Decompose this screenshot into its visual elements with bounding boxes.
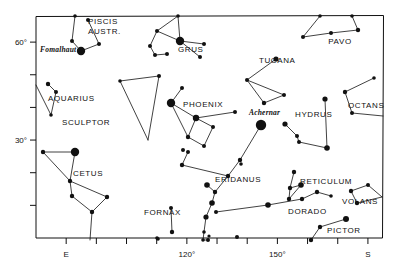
- constellation-label-line: AUSTR.: [88, 27, 121, 36]
- star-dot: [180, 86, 184, 90]
- star-dot: [324, 145, 330, 151]
- constellation-label: HYDRUS: [295, 110, 332, 119]
- constellation-label-line: VOLANS: [342, 197, 378, 206]
- constellation-label: PISCISAUSTR.: [88, 17, 121, 36]
- star-dot: [41, 150, 45, 154]
- constellation-label-line: GRUS: [178, 45, 204, 54]
- star-dot: [97, 42, 101, 46]
- constellation-label: PAVO: [328, 37, 351, 46]
- star-dot: [207, 234, 210, 237]
- constellation-label-line: RETICULUM: [300, 177, 352, 186]
- star-dot: [329, 31, 333, 35]
- constellation-label-line: ERIDANUS: [215, 175, 261, 184]
- sky-map-svg: PISCISAUSTR.GRUSTUCANAPAVOAQUARIUSSCULPT…: [0, 0, 396, 275]
- x-axis-tick-label: 120°: [179, 250, 196, 259]
- star-dot: [235, 235, 239, 239]
- star-chart: PISCISAUSTR.GRUSTUCANAPAVOAQUARIUSSCULPT…: [0, 0, 396, 275]
- star-dot: [71, 148, 79, 156]
- star-dot: [213, 190, 217, 194]
- star-dot: [350, 14, 354, 18]
- star-dot: [181, 148, 185, 152]
- x-axis-tick-label: E: [64, 250, 69, 259]
- constellation-label-line: PICTOR: [327, 226, 361, 235]
- star-dot: [155, 29, 159, 33]
- constellation-label-line: OCTANS: [348, 101, 384, 110]
- constellation-label-line: PAVO: [328, 37, 351, 46]
- star-dot: [295, 134, 299, 138]
- star-dot: [203, 214, 208, 219]
- x-axis-tick-label: 150°: [269, 250, 286, 259]
- star-dot: [315, 190, 319, 194]
- star-dot: [167, 99, 175, 107]
- star-dot: [282, 121, 287, 126]
- constellation-label-line: SCULPTOR: [62, 118, 110, 127]
- star-dot: [262, 101, 266, 105]
- star-dot: [209, 200, 215, 206]
- star-dot: [157, 74, 161, 78]
- star-dot: [148, 44, 152, 48]
- star-dot: [366, 183, 370, 187]
- star-dot: [301, 35, 305, 39]
- star-dot: [118, 79, 122, 83]
- star-dot: [186, 150, 190, 154]
- constellation-label: TUCANA: [259, 56, 296, 65]
- constellation-label-line: PHOENIX: [183, 100, 223, 109]
- constellation-label: ERIDANUS: [215, 175, 261, 184]
- star-dot: [201, 238, 205, 242]
- star-dot: [105, 195, 109, 199]
- star-dot: [156, 237, 160, 241]
- star-dot: [238, 158, 242, 162]
- named-star-label: Fomalhaut: [40, 45, 77, 54]
- star-dot: [73, 14, 77, 18]
- y-axis-tick-label: 30°: [15, 136, 27, 145]
- star-dot: [233, 110, 237, 114]
- star-dot: [300, 197, 304, 201]
- star-dot: [309, 238, 313, 242]
- star-dot: [165, 52, 169, 56]
- constellation-label-line: FORNAX: [144, 208, 181, 217]
- star-dot: [322, 96, 327, 101]
- star-dot: [68, 179, 72, 183]
- constellation-label: AQUARIUS: [48, 94, 95, 103]
- star-dot: [256, 120, 266, 130]
- star-dot: [49, 113, 53, 117]
- star-dot: [176, 37, 184, 45]
- star-dot: [170, 230, 174, 234]
- star-dot: [356, 28, 360, 32]
- constellation-label: SCULPTOR: [62, 118, 110, 127]
- star-dot: [211, 125, 215, 129]
- constellation-label: PICTOR: [327, 226, 361, 235]
- star-dot: [153, 53, 157, 57]
- star-dot: [193, 115, 199, 121]
- y-axis-tick-label: 60°: [15, 38, 27, 47]
- constellation-label: PHOENIX: [183, 100, 223, 109]
- constellation-label: GRUS: [178, 45, 204, 54]
- constellation-label: DORADO: [288, 207, 327, 216]
- constellation-label-line: PISCIS: [88, 17, 118, 26]
- star-dot: [77, 47, 85, 55]
- constellation-label-line: TUCANA: [259, 56, 296, 65]
- star-dot: [318, 14, 322, 18]
- star-dot: [70, 194, 74, 198]
- star-dot: [297, 140, 301, 144]
- constellation-label-line: HYDRUS: [295, 110, 332, 119]
- star-dot: [245, 78, 249, 82]
- constellation-label: VOLANS: [342, 197, 378, 206]
- constellation-label-line: AQUARIUS: [48, 94, 95, 103]
- star-dot: [329, 194, 333, 198]
- star-dot: [198, 55, 202, 59]
- x-axis-tick-label: S: [365, 250, 370, 259]
- constellation-label: FORNAX: [144, 208, 181, 217]
- star-dot: [239, 162, 243, 166]
- star-dot: [343, 90, 347, 94]
- constellation-label-line: DORADO: [288, 207, 327, 216]
- star-dot: [204, 182, 210, 188]
- star-dot: [292, 170, 296, 174]
- star-dot: [202, 144, 206, 148]
- star-dot: [70, 39, 74, 43]
- star-dot: [349, 189, 353, 193]
- star-dot: [176, 14, 180, 18]
- star-dot: [318, 225, 322, 229]
- star-dot: [288, 186, 292, 190]
- star-dot: [46, 82, 50, 86]
